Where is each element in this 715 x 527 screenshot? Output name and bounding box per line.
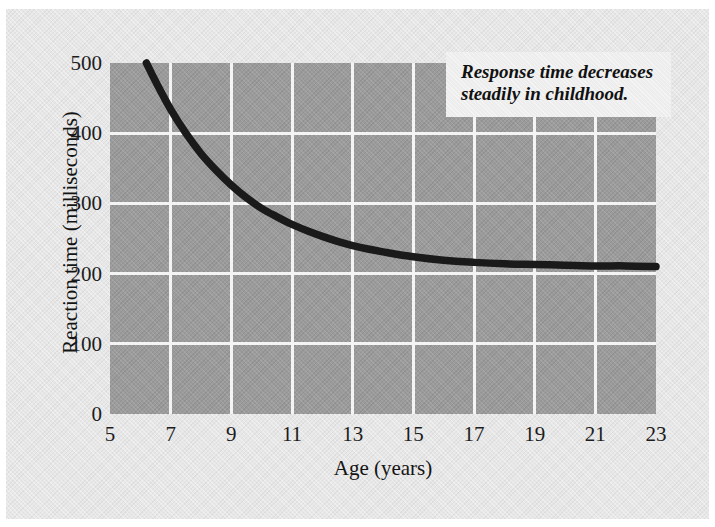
y-axis-tick-label: 300 — [42, 193, 102, 214]
x-axis-tick-label: 19 — [505, 424, 565, 445]
x-axis-tick-label: 7 — [141, 424, 201, 445]
figure-page: Reaction time (milliseconds) 01002003004… — [0, 0, 715, 527]
x-axis-tick-label: 15 — [383, 424, 443, 445]
x-axis-tick-label: 11 — [262, 424, 322, 445]
x-axis-tick-labels: 57911131517192123 — [110, 424, 656, 452]
y-axis-tick-label: 400 — [42, 123, 102, 144]
y-axis-tick-labels: 0100200300400500 — [38, 63, 102, 414]
y-axis-tick-label: 200 — [42, 264, 102, 285]
x-axis-tick-label: 21 — [565, 424, 625, 445]
x-axis-tick-label: 5 — [80, 424, 140, 445]
x-axis-tick-label: 13 — [323, 424, 383, 445]
annotation-callout: Response time decreases steadily in chil… — [446, 52, 671, 117]
x-axis-tick-label: 9 — [201, 424, 261, 445]
y-axis-tick-label: 0 — [42, 404, 102, 425]
annotation-text: Response time decreases steadily in chil… — [461, 61, 658, 106]
y-axis-tick-label: 500 — [42, 53, 102, 74]
x-axis-tick-label: 23 — [626, 424, 686, 445]
x-axis-tick-label: 17 — [444, 424, 504, 445]
y-axis-tick-label: 100 — [42, 334, 102, 355]
x-axis-title: Age (years) — [110, 456, 656, 481]
